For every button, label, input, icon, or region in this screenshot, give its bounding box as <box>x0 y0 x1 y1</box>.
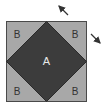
label-b-top-left: B <box>14 29 21 40</box>
arrow-up-left-icon <box>59 6 68 15</box>
label-b-bottom-right: B <box>72 86 79 97</box>
diagram-canvas: A B B B B <box>0 0 108 104</box>
label-b-bottom-left: B <box>14 86 21 97</box>
arrow-down-right-icon <box>91 34 100 43</box>
label-a: A <box>43 55 51 67</box>
label-b-top-right: B <box>72 29 79 40</box>
